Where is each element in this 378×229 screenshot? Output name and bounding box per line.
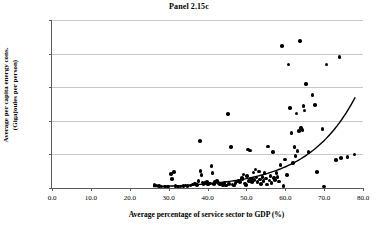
x-tick-mark	[169, 188, 170, 191]
x-tick-label: 80.0	[348, 194, 378, 202]
x-tick-label: 40.0	[193, 194, 223, 202]
x-tick-mark	[91, 188, 92, 191]
chart-container: Panel 2.15c Average per capita energy co…	[0, 0, 378, 229]
trendline	[52, 20, 363, 188]
x-tick-label: 30.0	[154, 194, 184, 202]
x-tick-mark	[363, 188, 364, 191]
x-tick-label: 0.0	[37, 194, 67, 202]
x-tick-mark	[208, 188, 209, 191]
y-axis-title-line1: Average per capita energy cons.	[2, 48, 11, 143]
trendline-path	[153, 97, 355, 186]
x-tick-label: 70.0	[309, 194, 339, 202]
x-axis-title: Average percentage of service sector to …	[51, 210, 362, 219]
x-tick-mark	[285, 188, 286, 191]
x-tick-label: 10.0	[76, 194, 106, 202]
x-tick-mark	[246, 188, 247, 191]
x-tick-label: 60.0	[270, 194, 300, 202]
y-axis-title-line2: (Gigajoules per person)	[11, 48, 20, 143]
chart-title: Panel 2.15c	[0, 2, 378, 11]
x-tick-mark	[130, 188, 131, 191]
plot-area: 0100200300400500 0.010.020.030.040.050.0…	[51, 20, 363, 189]
y-axis-title: Average per capita energy cons. (Gigajou…	[0, 0, 22, 190]
x-tick-label: 50.0	[231, 194, 261, 202]
x-tick-mark	[324, 188, 325, 191]
x-tick-label: 20.0	[115, 194, 145, 202]
x-tick-mark	[52, 188, 53, 191]
